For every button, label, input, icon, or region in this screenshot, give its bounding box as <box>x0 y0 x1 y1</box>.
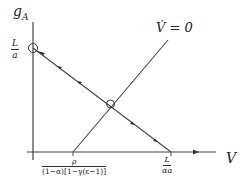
x-intercept-numerator: L <box>163 156 170 166</box>
y-intercept-label: L a <box>11 39 19 60</box>
y-axis-label-subscript: A <box>22 12 29 22</box>
trajectory-line <box>33 48 171 152</box>
x-axis-arrow-icon <box>193 150 199 155</box>
nullcline-x-intercept-numerator: ρ <box>71 158 77 166</box>
x-intercept-label: L αa <box>162 156 172 175</box>
y-axis-label-main: g <box>13 3 22 19</box>
phase-diagram-canvas <box>0 0 249 185</box>
nullcline-label: V̇ = 0 <box>156 20 193 35</box>
x-axis-label-text: V <box>226 150 236 166</box>
nullcline-x-intercept-label: ρ (1−α)[1−γ(ε−1)] <box>42 158 106 175</box>
y-intercept-numerator: L <box>11 39 19 50</box>
x-intercept-denominator: αa <box>162 166 172 175</box>
v-dot-zero-nullcline <box>73 40 168 152</box>
x-axis-label: V <box>226 150 236 166</box>
y-axis-label: gA <box>13 3 28 22</box>
nullcline-label-text: V̇ = 0 <box>156 20 193 35</box>
nullcline-x-intercept-denominator: (1−α)[1−γ(ε−1)] <box>42 167 106 176</box>
y-intercept-denominator: a <box>12 50 17 60</box>
